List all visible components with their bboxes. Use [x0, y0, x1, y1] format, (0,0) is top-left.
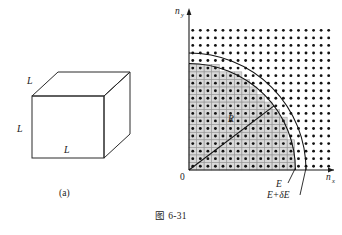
figure-6-31: L L L (a): [0, 0, 342, 235]
figure-caption: 图 6-31: [0, 208, 342, 222]
panel-a-cube: L L L (a): [0, 0, 172, 205]
cube-right-face: [104, 72, 130, 158]
cube-top-face: [32, 72, 130, 96]
energy-label-E-plus-delta-E: E+δE: [266, 190, 290, 200]
panel-a-label: (a): [59, 188, 70, 198]
radius-label-R: R: [227, 114, 234, 124]
panel-b-lattice: n y n x 0 R E E+δE (b): [168, 0, 342, 205]
y-axis-arrowhead: [187, 8, 192, 15]
cube-drawing: L L L: [0, 0, 172, 205]
cube-edge-label-left: L: [16, 123, 23, 134]
y-axis-label: n: [175, 6, 180, 16]
x-axis-label: n: [326, 172, 331, 182]
callout-leader-lines: [288, 168, 306, 195]
origin-label: 0: [180, 172, 185, 182]
energy-label-E: E: [275, 179, 282, 189]
cube-edge-label-bottom: L: [63, 144, 70, 155]
x-axis-label-sub: x: [331, 177, 335, 184]
leader-line-E-plus-dE: [300, 168, 306, 195]
y-axis-label-sub: y: [180, 11, 184, 18]
cube-edge-label-top: L: [26, 75, 33, 86]
n-space-diagram: n y n x 0 R E E+δE: [168, 0, 342, 205]
